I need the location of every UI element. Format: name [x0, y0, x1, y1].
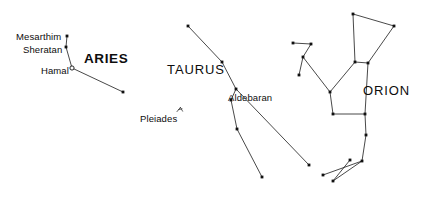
star-marker — [122, 91, 125, 94]
sky-map-canvas — [0, 0, 430, 203]
constellation-line — [188, 26, 222, 62]
constellation-line — [303, 44, 311, 57]
star-label-pleiades: Pleiades — [140, 114, 177, 124]
constellation-label-orion: ORION — [363, 84, 410, 97]
constellation-line — [330, 62, 355, 92]
star-label-sheratan: Sheratan — [23, 45, 62, 55]
star-marker — [354, 61, 357, 64]
star-marker — [236, 128, 239, 131]
star-label-hamal: Hamal — [41, 66, 69, 76]
clusters-layer — [177, 107, 183, 111]
star-marker — [365, 134, 368, 137]
constellation-line — [368, 26, 394, 63]
constellation-line — [333, 161, 362, 181]
star-marker — [66, 35, 69, 38]
star-chart: MesarthimSheratanHamalAldebaranPleiades … — [0, 0, 430, 203]
constellation-line — [362, 135, 366, 161]
constellation-line — [353, 14, 394, 26]
star-marker — [349, 159, 352, 162]
star-label-aldebaran: Aldebaran — [228, 93, 272, 103]
star-marker — [329, 91, 332, 94]
constellation-line — [303, 57, 330, 92]
star-marker — [332, 113, 335, 116]
star-marker — [310, 43, 313, 46]
star-marker — [261, 176, 264, 179]
constellation-line — [330, 92, 333, 114]
cluster-marker-pleiades — [177, 107, 183, 111]
constellation-line — [66, 36, 67, 47]
star-marker — [332, 180, 335, 183]
star-marker — [367, 62, 370, 65]
constellation-line — [323, 161, 362, 175]
constellation-line — [365, 114, 366, 135]
constellation-line — [231, 100, 237, 129]
star-marker — [364, 113, 367, 116]
star-marker — [393, 25, 396, 28]
star-marker — [298, 74, 301, 77]
star-marker — [352, 13, 355, 16]
star-marker — [322, 174, 325, 177]
constellation-label-aries: ARIES — [84, 52, 128, 66]
constellation-line — [293, 43, 311, 44]
constellation-line — [299, 57, 303, 75]
constellation-label-taurus: TAURUS — [167, 63, 225, 76]
constellation-line — [72, 68, 123, 92]
star-marker — [235, 88, 238, 91]
star-marker — [292, 42, 295, 45]
constellation-line — [353, 14, 355, 62]
constellation-line — [355, 62, 368, 63]
star-marker — [65, 46, 68, 49]
star-marker — [308, 164, 311, 167]
star-marker — [187, 25, 190, 28]
constellation-line — [237, 129, 262, 177]
star-label-mesarthim: Mesarthim — [16, 32, 61, 42]
star-marker — [361, 160, 364, 163]
star-marker — [302, 56, 305, 59]
star-marker-open — [70, 66, 74, 70]
